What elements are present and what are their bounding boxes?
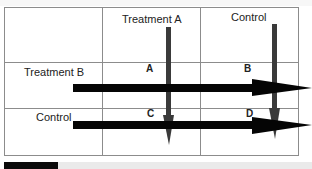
bottom-bar — [4, 162, 58, 169]
arrows-layer — [0, 0, 312, 169]
bottom-strip — [58, 162, 312, 169]
